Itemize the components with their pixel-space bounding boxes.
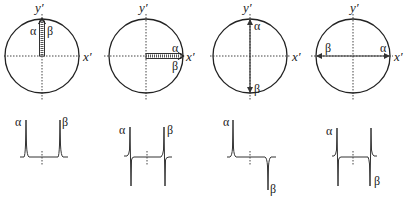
x-axis-label: x′	[291, 49, 301, 64]
spectrum-alpha-label: α	[119, 123, 126, 137]
spectrum-trace	[332, 128, 377, 186]
panel-4-spectrum: α β	[326, 124, 380, 188]
spectrum-alpha-label: α	[326, 124, 333, 138]
spectrum-beta-label: β	[270, 182, 276, 196]
beta-label: β	[47, 24, 53, 38]
panel-3-vector-diagram: y′ x′ α β	[210, 0, 301, 100]
panel-2-spectrum: α β	[119, 123, 173, 186]
y-axis-label: y′	[33, 0, 44, 15]
beta-label: β	[325, 41, 331, 55]
panel-1-spectrum: α β	[15, 115, 68, 165]
spectrum-alpha-label: α	[223, 115, 230, 129]
alpha-label: α	[380, 41, 387, 55]
panel-1-vector-diagram: y′ x′ α β	[4, 0, 92, 100]
spectrum-beta-label: β	[62, 115, 68, 129]
panel-3-spectrum: α β	[223, 115, 276, 196]
y-axis-label: y′	[348, 0, 359, 15]
x-axis-label: x′	[393, 49, 403, 64]
beta-label: β	[172, 59, 178, 73]
alpha-label: α	[172, 41, 179, 55]
spectrum-beta-label: β	[167, 123, 173, 137]
beta-label: β	[254, 82, 260, 96]
figure-canvas: y′ x′ α β α β y′ x′ α β α β y′ x′ α	[0, 0, 404, 199]
panel-4-vector-diagram: y′ x′ α β	[311, 0, 403, 100]
spectrum-trace	[20, 120, 68, 157]
alpha-label: α	[30, 24, 37, 38]
x-axis-label: x′	[82, 49, 92, 64]
y-axis-label: y′	[241, 0, 252, 15]
y-axis-label: y′	[137, 0, 148, 15]
spectrum-beta-label: β	[374, 174, 380, 188]
alpha-label: α	[254, 19, 261, 33]
x-axis-label: x′	[185, 49, 195, 64]
spectrum-trace	[124, 127, 172, 186]
spectrum-alpha-label: α	[15, 115, 22, 129]
panel-2-vector-diagram: y′ x′ α β	[104, 0, 195, 100]
spectrum-trace	[227, 120, 276, 190]
